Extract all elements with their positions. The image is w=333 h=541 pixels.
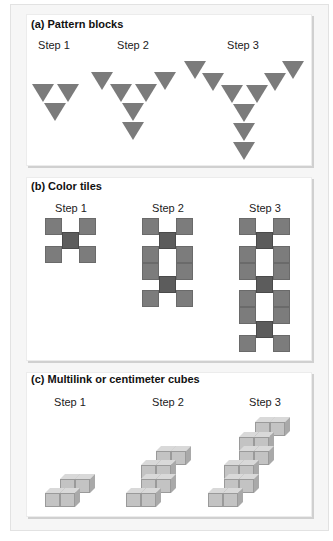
step-label: Step 2 (117, 39, 149, 51)
color-tile (273, 307, 290, 324)
cube (239, 460, 254, 474)
triangle-block (154, 72, 176, 90)
cube (75, 474, 90, 488)
cube (208, 488, 223, 502)
step-label: Step 1 (38, 39, 70, 51)
cube (156, 446, 171, 460)
triangle-block (122, 103, 144, 121)
color-tile (239, 218, 256, 235)
cube (239, 474, 254, 488)
triangle-block (44, 103, 66, 121)
cube (239, 432, 254, 446)
color-tile (239, 263, 256, 280)
color-tile (273, 263, 290, 280)
color-tile (273, 335, 290, 352)
cube (156, 460, 171, 474)
cube (141, 488, 156, 502)
step-label: Step 3 (249, 396, 281, 408)
step-label: Step 1 (54, 396, 86, 408)
step-label: Step 2 (152, 396, 184, 408)
cube (254, 446, 269, 460)
cube (141, 474, 156, 488)
color-tile (79, 246, 96, 263)
triangle-block (32, 84, 54, 102)
color-tile (176, 246, 193, 263)
step-label: Step 2 (152, 202, 184, 214)
color-tile-center (256, 276, 273, 293)
cube (156, 474, 171, 488)
color-tile (239, 290, 256, 307)
cube (255, 417, 270, 431)
color-tile (239, 335, 256, 352)
color-tile (176, 263, 193, 280)
triangle-block (122, 122, 144, 140)
color-tile-center (256, 232, 273, 249)
triangle-block (282, 61, 304, 79)
color-tile-center (256, 321, 273, 338)
cube (60, 488, 75, 502)
color-tile (142, 263, 159, 280)
color-tile (45, 218, 62, 235)
triangle-block (110, 84, 132, 102)
color-tile (176, 218, 193, 235)
triangle-block (221, 85, 243, 103)
step-label: Step 1 (55, 202, 87, 214)
color-tile (239, 307, 256, 324)
color-tile-center (159, 232, 176, 249)
cube (239, 446, 254, 460)
panel-title-multilink-cubes: (c) Multilink or centimeter cubes (31, 373, 200, 385)
color-tile (239, 246, 256, 263)
color-tile-center (159, 276, 176, 293)
cube (270, 417, 285, 431)
cube (224, 474, 239, 488)
color-tile (79, 218, 96, 235)
color-tile (273, 290, 290, 307)
color-tile (176, 290, 193, 307)
cube (224, 460, 239, 474)
cube (126, 488, 141, 502)
color-tile-center (62, 232, 79, 249)
cube (141, 460, 156, 474)
step-label: Step 3 (227, 39, 259, 51)
color-tile (142, 218, 159, 235)
color-tile (142, 290, 159, 307)
cube (254, 432, 269, 446)
cube (45, 488, 60, 502)
triangle-block (233, 142, 255, 160)
color-tile (45, 246, 62, 263)
triangle-block (233, 104, 255, 122)
color-tile (273, 246, 290, 263)
triangle-block (233, 123, 255, 141)
panel-title-color-tiles: (b) Color tiles (31, 180, 102, 192)
triangle-block (57, 84, 79, 102)
cube (171, 446, 186, 460)
color-tile (273, 218, 290, 235)
cube (223, 488, 238, 502)
cube (60, 474, 75, 488)
panel-title-pattern-blocks: (a) Pattern blocks (31, 18, 123, 30)
color-tile (142, 246, 159, 263)
step-label: Step 3 (249, 202, 281, 214)
